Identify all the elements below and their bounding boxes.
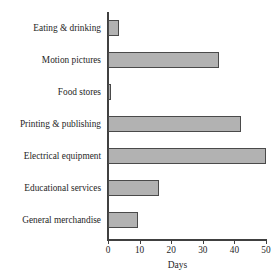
bar-printing-publishing [108,116,241,132]
x-tick-label: 10 [135,245,144,255]
bar-row: Food stores [108,76,266,108]
x-tick [266,239,267,244]
category-label: Printing & publishing [20,108,101,140]
category-label: General merchandise [22,204,101,236]
x-tick-label: 50 [261,245,270,255]
x-tick-label: 40 [230,245,239,255]
bar-row: Printing & publishing [108,108,266,140]
category-label: Electrical equipment [24,140,101,172]
x-tick [140,239,141,244]
bar-row: Motion pictures [108,44,266,76]
category-label: Eating & drinking [33,12,101,44]
bar-chart: Eating & drinking Motion pictures Food s… [0,0,277,279]
x-axis-title-text: Days [90,260,188,270]
category-label: Motion pictures [42,44,101,76]
category-label: Food stores [58,76,101,108]
bar-general-merchandise [108,212,138,228]
x-tick-label: 0 [106,245,111,255]
bar-motion-pictures [108,52,219,68]
bar-row: Eating & drinking [108,12,266,44]
x-tick [171,239,172,244]
x-tick-label: 30 [198,245,207,255]
bar-educational-services [108,180,159,196]
bar-food-stores [108,84,111,100]
plot-area: Eating & drinking Motion pictures Food s… [108,12,266,239]
x-tick [234,239,235,244]
x-tick [203,239,204,244]
x-axis-title: Days [0,260,277,270]
bar-row: Educational services [108,172,266,204]
bar-eating-drinking [108,20,119,36]
x-tick-label: 20 [167,245,176,255]
bar-electrical-equipment [108,148,266,164]
x-axis-line [107,239,267,241]
bar-row: Electrical equipment [108,140,266,172]
x-tick [108,239,109,244]
bar-row: General merchandise [108,204,266,236]
category-label: Educational services [24,172,101,204]
